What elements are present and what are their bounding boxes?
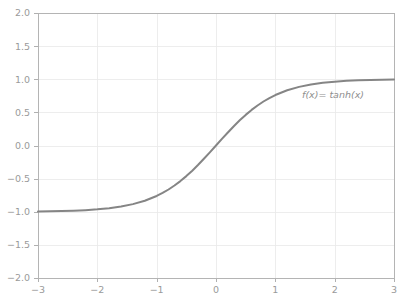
x-tick-label: 2 — [332, 284, 338, 295]
curve-annotation-label: f(x)= tanh(x) — [302, 89, 364, 100]
y-tick-label: −0.5 — [7, 173, 30, 184]
y-tick-label: −1.5 — [7, 239, 30, 250]
y-tick-label: −1.0 — [7, 206, 30, 217]
x-tick-label: 3 — [391, 284, 397, 295]
x-tick-label: 1 — [272, 284, 278, 295]
y-tick-label: 0.0 — [15, 140, 30, 151]
chart-container: 2.01.51.00.50.0−0.5−1.0−1.5−2.0 −3−2−101… — [0, 0, 411, 307]
chart-background — [0, 0, 411, 307]
x-tick-label: −3 — [31, 284, 45, 295]
y-tick-label: 0.5 — [15, 107, 30, 118]
y-tick-label: 1.5 — [15, 41, 30, 52]
y-tick-label: 2.0 — [15, 7, 30, 18]
y-tick-label: −2.0 — [7, 272, 30, 283]
x-tick-label: 0 — [213, 284, 219, 295]
tanh-line-chart: 2.01.51.00.50.0−0.5−1.0−1.5−2.0 −3−2−101… — [0, 0, 411, 307]
x-tick-label: −2 — [90, 284, 104, 295]
y-tick-label: 1.0 — [15, 74, 30, 85]
x-tick-label: −1 — [150, 284, 164, 295]
